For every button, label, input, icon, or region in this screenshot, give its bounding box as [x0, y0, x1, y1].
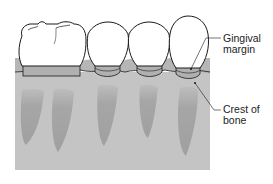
tooth-molar	[19, 22, 86, 76]
teeth-diagram	[0, 0, 273, 184]
label-crest-line2: bone	[223, 115, 260, 126]
label-gingival-line2: margin	[223, 44, 261, 55]
label-gingival-margin: Gingival margin	[223, 33, 261, 55]
label-crest-of-bone: Crest of bone	[223, 104, 260, 126]
